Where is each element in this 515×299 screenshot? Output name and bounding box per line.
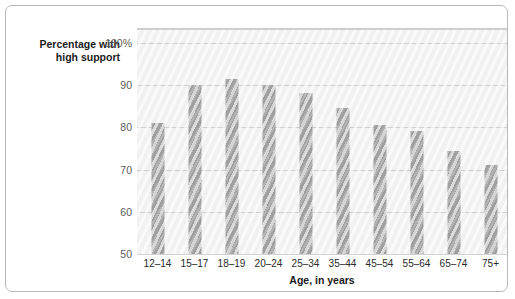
x-tick-label: 18–19 bbox=[218, 258, 246, 269]
bar bbox=[336, 108, 349, 254]
x-tick-label: 20–24 bbox=[255, 258, 283, 269]
bar bbox=[262, 85, 275, 254]
y-axis-label: Percentage with high support bbox=[12, 38, 120, 64]
bar bbox=[225, 79, 238, 254]
x-tick-label: 35–44 bbox=[329, 258, 357, 269]
x-tick-label: 25–34 bbox=[292, 258, 320, 269]
bar bbox=[299, 93, 312, 254]
gridline-50 bbox=[137, 254, 507, 255]
bar bbox=[447, 151, 460, 255]
plot-area: 5060708090100% bbox=[137, 28, 507, 254]
y-axis-label-line-2: high support bbox=[12, 51, 120, 64]
y-tick-label: 70 bbox=[120, 164, 132, 176]
y-tick-label: 100% bbox=[105, 37, 132, 49]
bar bbox=[188, 85, 201, 254]
x-axis-label: Age, in years bbox=[137, 274, 507, 286]
bar bbox=[410, 131, 423, 254]
bar bbox=[151, 123, 164, 254]
bar bbox=[484, 165, 497, 254]
y-tick-label: 50 bbox=[120, 248, 132, 260]
y-tick-label: 60 bbox=[120, 206, 132, 218]
x-tick-label: 12–14 bbox=[144, 258, 172, 269]
x-tick-label: 55–64 bbox=[403, 258, 431, 269]
gridline-100 bbox=[137, 43, 507, 44]
y-tick-label: 80 bbox=[120, 121, 132, 133]
x-tick-label: 15–17 bbox=[181, 258, 209, 269]
bar bbox=[373, 125, 386, 254]
chart-figure: Percentage with high support 50607080901… bbox=[5, 5, 508, 292]
y-tick-label: 90 bbox=[120, 79, 132, 91]
x-tick-label: 75+ bbox=[482, 258, 499, 269]
x-tick-label: 65–74 bbox=[440, 258, 468, 269]
x-tick-label: 45–54 bbox=[366, 258, 394, 269]
